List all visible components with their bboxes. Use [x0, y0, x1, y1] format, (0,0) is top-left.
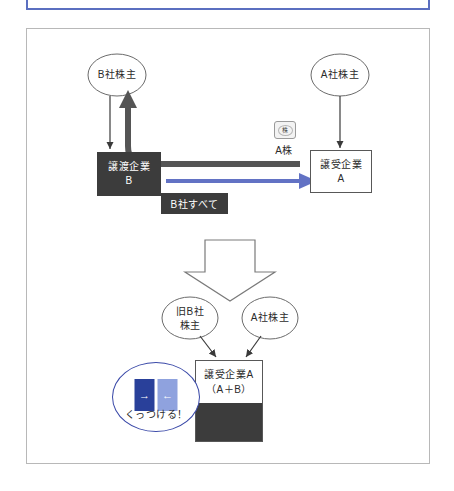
box-transferee-company-a-line2: A — [337, 172, 344, 186]
box-merged-company-line1: 譲受企業A — [204, 367, 253, 382]
bubble-text: くっつける！ — [113, 406, 199, 421]
ellipse-old-shareholder-b — [162, 297, 218, 339]
screenshot-root: B社株主 A社株主 旧B社 株主 A社株主 譲渡企業 B 譲受企業 A 株 A株… — [0, 0, 454, 491]
box-transferor-company-b-line2: B — [125, 174, 132, 188]
box-transferee-company-a-line1: 譲受企業 — [320, 158, 362, 172]
ellipse-shareholder-a-upper — [311, 54, 369, 96]
box-transferee-company-a: 譲受企業 A — [310, 150, 372, 193]
stock-certificate-icon-glyph: 株 — [278, 125, 293, 136]
arrow-shareholdera-to-merged — [246, 336, 261, 357]
box-merged-company-top: 譲受企業A （A＋B） — [196, 361, 262, 403]
stock-certificate-icon: 株 — [274, 121, 296, 139]
box-merged-company-bottom — [196, 403, 262, 441]
box-transferor-company-b-line1: 譲渡企業 — [108, 160, 150, 174]
speech-bubble-stick-together: → ← くっつける！ — [112, 362, 200, 432]
box-transferor-company-b: 譲渡企業 B — [97, 152, 161, 196]
tag-all-of-company-b: B社すべて — [161, 193, 228, 214]
label-a-stock: A株 — [264, 142, 304, 157]
arrow-old-shareholderb-to-merged — [200, 336, 216, 357]
big-down-arrow — [185, 240, 275, 301]
ellipse-shareholder-b — [88, 54, 146, 96]
box-merged-company: 譲受企業A （A＋B） — [195, 360, 263, 442]
ellipse-shareholder-a-lower — [242, 297, 298, 339]
box-merged-company-line2: （A＋B） — [206, 382, 252, 397]
